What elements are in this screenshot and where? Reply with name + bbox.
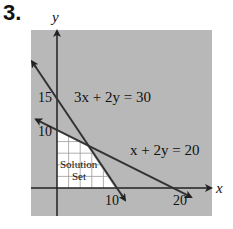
- solution-set-label-2: Set: [72, 170, 86, 182]
- solution-set-label-1: Solution: [60, 158, 98, 170]
- x-tick-20: 20: [173, 193, 187, 208]
- equation-label-2: x + 2y = 20: [130, 142, 199, 158]
- graph: y x 15 10 10 20 3x + 2y = 30 x + 2y = 20…: [0, 0, 233, 229]
- y-tick-15: 15: [38, 90, 52, 105]
- x-axis-label: x: [215, 180, 223, 196]
- y-tick-10: 10: [38, 124, 52, 139]
- y-axis-label: y: [50, 9, 59, 25]
- x-tick-10: 10: [105, 193, 119, 208]
- equation-label-1: 3x + 2y = 30: [74, 89, 151, 105]
